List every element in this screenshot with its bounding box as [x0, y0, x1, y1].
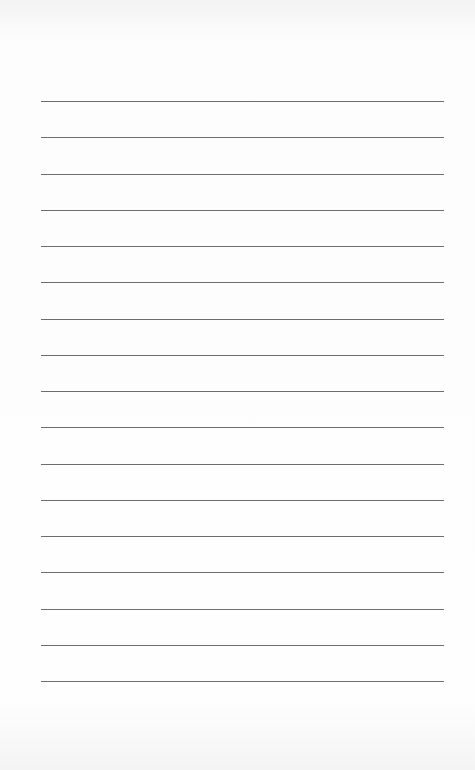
- ruled-line: [41, 137, 444, 138]
- ruled-line: [41, 609, 444, 610]
- ruled-line: [41, 391, 444, 392]
- ruled-line: [41, 681, 444, 682]
- ruled-line: [41, 174, 444, 175]
- ruled-line: [41, 536, 444, 537]
- ruled-line: [41, 427, 444, 428]
- ruled-line: [41, 282, 444, 283]
- ruled-line: [41, 101, 444, 102]
- ruled-line: [41, 572, 444, 573]
- ruled-line: [41, 246, 444, 247]
- ruled-line: [41, 464, 444, 465]
- ruled-line: [41, 319, 444, 320]
- ruled-line: [41, 500, 444, 501]
- ruled-line: [41, 210, 444, 211]
- lined-paper-sheet: [0, 0, 475, 770]
- ruled-line: [41, 645, 444, 646]
- ruled-line: [41, 355, 444, 356]
